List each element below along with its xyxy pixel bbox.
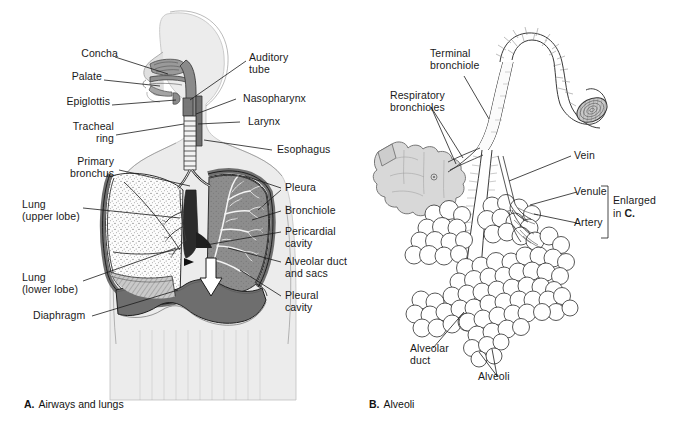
label-diaphragm: Diaphragm	[33, 310, 113, 322]
bracket-note-prefix: in	[613, 207, 624, 219]
label-alveoli: Alveoli	[478, 371, 532, 383]
bracket-note-line1: Enlarged	[613, 195, 679, 207]
label-pleura: Pleura	[285, 182, 345, 194]
label-epiglottis: Epiglottis	[32, 96, 110, 108]
label-alveolar-duct: Alveolar duct	[410, 343, 472, 367]
panel-b-letter: B.	[369, 398, 380, 410]
label-primary-bronchus: Primary bronchus	[20, 156, 114, 180]
label-terminal-bronchiole: Terminal bronchiole	[430, 48, 502, 72]
bracket-note-bold-c: C.	[624, 207, 635, 219]
panel-a-caption: A.Airways and lungs	[24, 398, 124, 410]
label-respiratory-bronchioles: Respiratory bronchioles	[390, 90, 476, 114]
label-pleural-cavity: Pleural cavity	[285, 290, 347, 314]
label-nasopharynx: Nasopharynx	[243, 93, 331, 105]
label-alveolar-duct-and-sacs: Alveolar duct and sacs	[285, 256, 369, 280]
panel-a-letter: A.	[24, 398, 35, 410]
panel-b-caption: B.Alveoli	[369, 398, 414, 410]
label-lung-upper-lobe: Lung (upper lobe)	[22, 199, 114, 223]
label-esophagus: Esophagus	[277, 144, 351, 156]
label-concha: Concha	[50, 48, 118, 60]
panel-a-caption-text: Airways and lungs	[35, 398, 124, 410]
label-vein: Vein	[574, 150, 618, 162]
bracket-note-line2: in C.	[613, 208, 679, 220]
label-palate: Palate	[40, 71, 102, 83]
respiratory-system-figure: Concha Palate Epiglottis Tracheal ring P…	[0, 0, 685, 424]
label-pericardial-cavity: Pericardial cavity	[285, 226, 355, 250]
label-lung-lower-lobe: Lung (lower lobe)	[22, 272, 114, 296]
label-auditory-tube: Auditory tube	[249, 52, 319, 76]
label-tracheal-ring: Tracheal ring	[36, 121, 114, 145]
label-bronchiole: Bronchiole	[285, 205, 355, 217]
label-larynx: Larynx	[248, 116, 308, 128]
thorax	[103, 170, 273, 325]
panel-b-caption-text: Alveoli	[380, 398, 415, 410]
